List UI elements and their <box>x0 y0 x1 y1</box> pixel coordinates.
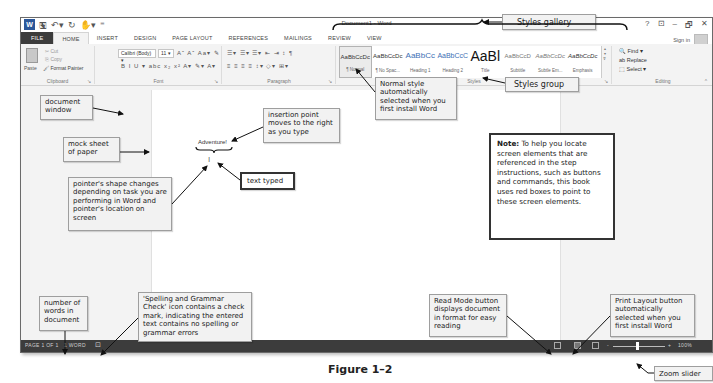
clipboard-launcher-icon[interactable]: ↘ <box>87 78 91 84</box>
format-painter-button[interactable]: 🖌 Format Painter <box>43 65 83 71</box>
ribbon-display-options-icon[interactable]: ⊡ <box>658 19 665 33</box>
style-subtle-emphasis[interactable]: AaBbCcDc Subtle Em... <box>534 46 567 78</box>
sign-in-link[interactable]: Sign in <box>673 37 690 43</box>
restore-icon[interactable]: 🗗 <box>685 19 693 33</box>
copy-button[interactable]: ⎘ Copy <box>45 56 62 63</box>
font-size-select[interactable]: 11 ▾ <box>158 49 174 58</box>
collapse-ribbon-icon[interactable]: ^ <box>705 78 707 84</box>
paste-icon[interactable] <box>26 48 38 63</box>
status-bar: PAGE 1 OF 1 1 WORD ⊡ - + 100% <box>21 340 712 352</box>
style-heading-2[interactable]: AaBbCcC Heading 2 <box>437 46 470 78</box>
styles-gallery: AaBbCcDc ¶ Normal AaBbCcDc ¶ No Spac... … <box>339 46 601 78</box>
tab-references[interactable]: REFERENCES <box>221 32 277 44</box>
font-row-2[interactable]: B I U ▾ abc x₂ x² A▾ ✎▾ A▾ <box>121 62 216 69</box>
spelling-grammar-check-icon[interactable]: ⊡ <box>95 341 101 349</box>
callout-spelling-check: 'Spelling and Grammar Check' icon contai… <box>138 292 252 342</box>
style-heading-1[interactable]: AaBbCc Heading 1 <box>404 46 437 78</box>
callout-insertion-point: insertion point moves to the right as yo… <box>263 108 340 143</box>
document-title: Document1 - Word <box>21 20 712 26</box>
find-button[interactable]: 🔍 Find ▾ <box>619 48 643 54</box>
font-group-label: Font <box>96 78 221 84</box>
clipboard-group: Paste ✂ Cut ⎘ Copy 🖌 Format Painter Clip… <box>21 46 95 84</box>
callout-print-layout: Print Layout button automatically select… <box>610 294 695 337</box>
font-row-1[interactable]: Aˆ Aˇ Aa▾ ✎ <box>177 49 220 56</box>
figure-caption: Figure 1–2 <box>328 363 393 376</box>
paragraph-group: ☰▾ ☰▾ ☰▾ ⇤ ⇥ ↕ ¶ ≡ ≡ ≡ ≡ ↕▾ ◇▾ ⊞▾ Paragr… <box>223 46 336 84</box>
callout-styles-gallery: Styles gallery <box>502 14 596 30</box>
tab-review[interactable]: REVIEW <box>320 32 359 44</box>
font-name-select[interactable]: Calibri (Body) ▾ <box>118 49 156 58</box>
cut-button[interactable]: ✂ Cut <box>45 48 58 54</box>
callout-word-count: number of words in document <box>39 296 88 331</box>
callout-text-typed: text typed <box>240 172 295 190</box>
note-label: Note: <box>497 139 519 148</box>
read-mode-button[interactable] <box>554 342 561 349</box>
zoom-level[interactable]: 100% <box>678 342 692 348</box>
style-subtitle[interactable]: AaBbCcD Subtitle <box>502 46 535 78</box>
select-button[interactable]: ⬚ Select ▾ <box>619 66 646 72</box>
zoom-in-button[interactable]: + <box>668 342 671 348</box>
close-icon[interactable]: ✕ <box>701 19 708 33</box>
font-launcher-icon[interactable]: ↘ <box>214 78 218 84</box>
tab-view[interactable]: VIEW <box>359 32 390 44</box>
ribbon-tabs: FILE HOME INSERT DESIGN PAGE LAYOUT REFE… <box>21 32 712 44</box>
styles-launcher-icon[interactable]: ↘ <box>604 78 608 84</box>
title-bar: W 🖫 ↶▾ ↻ ✋▾ ⁼ Document1 - Word ? ⊡ – 🗗 ✕ <box>21 18 712 32</box>
web-layout-button[interactable] <box>592 342 599 349</box>
style-no-spacing[interactable]: AaBbCcDc ¶ No Spac... <box>372 46 405 78</box>
callout-mock-sheet: mock sheet of paper <box>63 137 120 162</box>
callout-zoom-slider: Zoom slider <box>654 366 713 381</box>
callout-read-mode: Read Mode button displays document in fo… <box>429 294 507 337</box>
callout-pointer-shape: pointer's shape changes depending on tas… <box>68 177 172 231</box>
clipboard-group-label: Clipboard <box>21 78 94 84</box>
zoom-out-button[interactable]: - <box>607 342 609 348</box>
tab-design[interactable]: DESIGN <box>126 32 164 44</box>
paragraph-launcher-icon[interactable]: ↘ <box>328 78 332 84</box>
ibeam-pointer-icon: I <box>208 155 210 164</box>
window-controls: ? ⊡ – 🗗 ✕ <box>645 19 708 33</box>
style-emphasis[interactable]: AaBbCcDc Emphasis <box>567 46 600 78</box>
tab-mailings[interactable]: MAILINGS <box>276 32 320 44</box>
tab-page-layout[interactable]: PAGE LAYOUT <box>164 32 220 44</box>
styles-gallery-scroll[interactable]: ▴▾⊽ <box>601 46 607 78</box>
tab-file[interactable]: FILE <box>21 32 53 44</box>
typed-text: Adventure! <box>198 139 227 145</box>
editing-group-label: Editing <box>613 78 713 84</box>
print-layout-button[interactable] <box>574 342 581 349</box>
callout-document-window: document window <box>40 95 93 120</box>
paragraph-group-label: Paragraph <box>223 78 335 84</box>
zoom-slider-track[interactable] <box>613 346 665 347</box>
note-text: To help you locate screen elements that … <box>497 139 601 206</box>
callout-normal-style: Normal style automatically selected when… <box>375 77 457 120</box>
style-title[interactable]: AaBl Title <box>469 46 502 78</box>
tab-insert[interactable]: INSERT <box>89 32 126 44</box>
paragraph-row-2[interactable]: ≡ ≡ ≡ ≡ ↕▾ ◇▾ ⊞▾ <box>227 62 289 69</box>
minimize-icon[interactable]: – <box>673 19 677 33</box>
note-box: Note: To help you locate screen elements… <box>489 133 615 240</box>
help-icon[interactable]: ? <box>645 19 649 33</box>
tab-home[interactable]: HOME <box>53 32 88 44</box>
callout-styles-group: Styles group <box>505 77 579 92</box>
paragraph-row-1[interactable]: ☰▾ ☰▾ ☰▾ ⇤ ⇥ ↕ ¶ <box>227 49 293 56</box>
style-normal[interactable]: AaBbCcDc ¶ Normal <box>339 46 372 78</box>
word-count[interactable]: 1 WORD <box>64 342 86 348</box>
zoom-slider-thumb[interactable] <box>636 342 639 350</box>
replace-button[interactable]: ab Replace <box>619 57 647 63</box>
page-count[interactable]: PAGE 1 OF 1 <box>25 342 59 348</box>
paste-button[interactable]: Paste <box>24 65 37 71</box>
font-group: Calibri (Body) ▾ 11 ▾ Aˆ Aˇ Aa▾ ✎ B I U … <box>96 46 222 84</box>
